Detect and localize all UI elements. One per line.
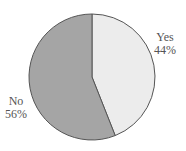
label-yes: Yes 44%	[150, 31, 180, 57]
label-no: No 56%	[1, 95, 31, 121]
label-no-percent: 56%	[1, 108, 31, 121]
label-yes-percent: 44%	[150, 44, 180, 57]
pie-chart	[0, 0, 186, 151]
